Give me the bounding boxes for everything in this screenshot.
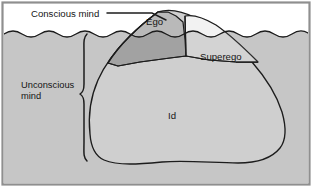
diagram-canvas: Conscious mind Unconscious mind Ego Supe… [0, 0, 312, 187]
unconscious-mind-label-line1: Unconscious [21, 80, 75, 90]
id-label: Id [168, 110, 176, 121]
ego-label: Ego [146, 16, 163, 27]
conscious-mind-label: Conscious mind [31, 8, 99, 19]
iceberg-diagram: Conscious mind Unconscious mind Ego Supe… [0, 0, 312, 187]
unconscious-mind-label-line2: mind [21, 91, 41, 101]
superego-label: Superego [200, 51, 242, 62]
